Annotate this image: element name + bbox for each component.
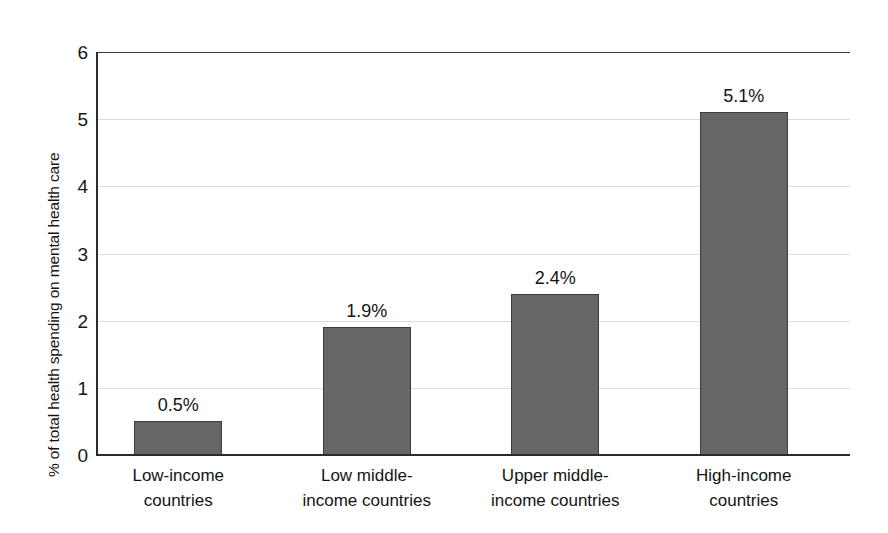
- x-axis-line: [96, 454, 850, 456]
- x-tick-label-line: income countries: [273, 489, 462, 514]
- bar-value-label: 5.1%: [680, 87, 808, 105]
- y-tick-label: 5: [58, 110, 88, 129]
- y-tick-label: 1: [58, 378, 88, 397]
- bar-value-label: 0.5%: [114, 396, 242, 414]
- x-tick-label-line: High-income: [650, 464, 839, 489]
- bar-value-label: 2.4%: [491, 269, 619, 287]
- x-tick-label-line: Upper middle-: [461, 464, 650, 489]
- y-tick-label: 0: [58, 446, 88, 465]
- x-axis-tick-labels: Low-incomecountriesLow middle-income cou…: [96, 464, 850, 528]
- y-tick-label: 3: [58, 244, 88, 263]
- x-tick-label-line: Low middle-: [273, 464, 462, 489]
- y-tick-label: 6: [58, 43, 88, 62]
- bar: [323, 327, 411, 455]
- y-axis-line: [96, 52, 98, 456]
- x-tick-label-line: countries: [650, 489, 839, 514]
- x-tick-label-line: Low-income: [84, 464, 273, 489]
- bar-value-label: 1.9%: [303, 302, 431, 320]
- x-tick-label: Upper middle-income countries: [461, 464, 650, 513]
- y-tick-label: 4: [58, 177, 88, 196]
- bar: [511, 294, 599, 455]
- x-tick-label-line: countries: [84, 489, 273, 514]
- x-tick-label: High-incomecountries: [650, 464, 839, 513]
- bar: [134, 421, 222, 455]
- bar: [700, 112, 788, 455]
- y-tick-label: 2: [58, 311, 88, 330]
- y-axis-tick-labels: 0123456: [52, 52, 88, 455]
- plot-top-border: [96, 52, 850, 53]
- x-tick-label: Low-incomecountries: [84, 464, 273, 513]
- plot-area: 0.5%1.9%2.4%5.1%: [96, 52, 850, 455]
- x-tick-label-line: income countries: [461, 489, 650, 514]
- bar-chart-figure: % of total health spending on mental hea…: [0, 0, 888, 533]
- x-tick-label: Low middle-income countries: [273, 464, 462, 513]
